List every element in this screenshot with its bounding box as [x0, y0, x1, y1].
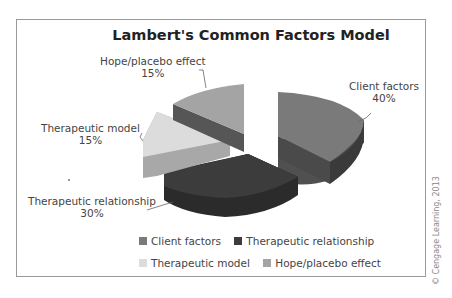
- legend-row-1: Client factors Therapeutic relationship: [139, 235, 384, 247]
- swatch-icon: [234, 237, 242, 245]
- legend-item-therapeutic-model: Therapeutic model: [139, 257, 250, 269]
- legend-item-therapeutic-relationship: Therapeutic relationship: [234, 235, 374, 247]
- legend-item-client-factors: Client factors: [139, 235, 221, 247]
- legend-item-hope-placebo: Hope/placebo effect: [263, 257, 381, 269]
- swatch-icon: [263, 259, 271, 267]
- label-client-factors: Client factors 40%: [349, 80, 419, 104]
- label-therapeutic-relationship: Therapeutic relationship 30%: [28, 195, 156, 219]
- legend-row-2: Therapeutic model Hope/placebo effect: [139, 257, 391, 269]
- swatch-icon: [139, 259, 147, 267]
- copyright-credit: © Cengage Learning, 2013: [432, 176, 441, 285]
- slice-client-factors: [278, 92, 364, 185]
- label-hope-placebo: Hope/placebo effect 15%: [100, 55, 206, 79]
- label-therapeutic-model: Therapeutic model 15%: [41, 122, 140, 146]
- pie-chart: [0, 0, 452, 298]
- swatch-icon: [139, 237, 147, 245]
